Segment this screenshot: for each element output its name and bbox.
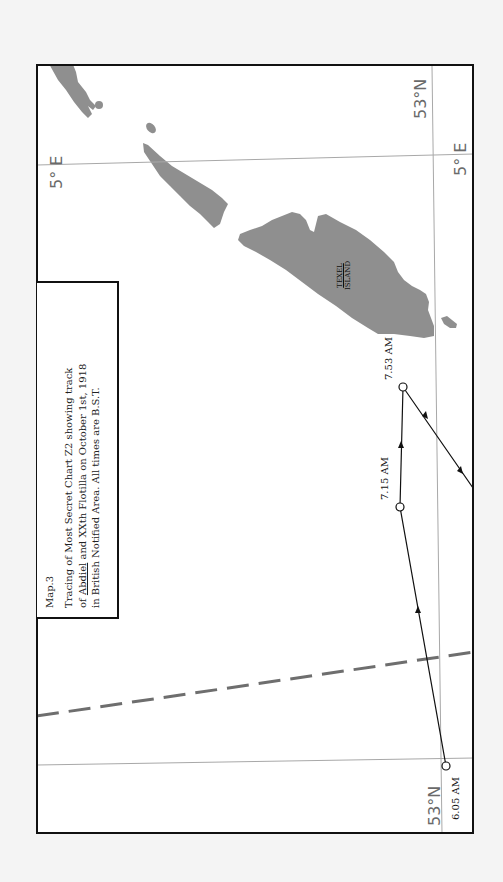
lat-label-top-right: 53°N (411, 79, 430, 119)
track-arrow-icon (415, 606, 421, 613)
track-point-0753 (399, 383, 407, 391)
island-vlieland (143, 143, 228, 228)
parallel-line (432, 66, 442, 834)
map-caption: Map.3 Tracing of Most Secret Chart Z2 sh… (44, 288, 103, 608)
island-north (48, 62, 96, 118)
meridian-line-bottom (37, 758, 474, 765)
caption-line-2-rest: and XXth Flotilla on October 1st, 1918 (77, 364, 88, 563)
meridian-line-top (37, 154, 474, 165)
caption-line-1: Tracing of Most Secret Chart Z2 showing … (62, 288, 76, 608)
track-point-0715 (396, 503, 404, 511)
islet-small (95, 101, 103, 109)
track-point-0605 (442, 762, 450, 770)
island-label-line1: TEXEL (336, 261, 344, 290)
island-label-line2: ISLAND (344, 261, 352, 290)
track-arrow-icon (398, 441, 404, 448)
island-label-texel: TEXEL ISLAND (336, 261, 352, 290)
time-label-0605: 6.05 AM (450, 777, 461, 820)
caption-line-3: in British Notified Area. All times are … (89, 288, 103, 608)
islet-east (441, 316, 457, 328)
lat-label-bottom: 53°N (425, 786, 444, 826)
caption-line-2: of Abdiel and XXth Flotilla on October 1… (76, 288, 90, 608)
map-title: Map.3 (44, 288, 55, 608)
notified-area-boundary (37, 652, 474, 716)
lon-label-top-right: 5° E (451, 143, 470, 176)
time-label-0715: 7.15 AM (379, 457, 390, 500)
lon-label-top-left: 5° E (47, 156, 66, 189)
time-label-0753: 7.53 AM (383, 337, 394, 380)
islet-oval (144, 121, 158, 135)
ship-name-abdiel: Abdiel (77, 563, 88, 595)
caption-line-2-prefix: of (77, 595, 88, 608)
